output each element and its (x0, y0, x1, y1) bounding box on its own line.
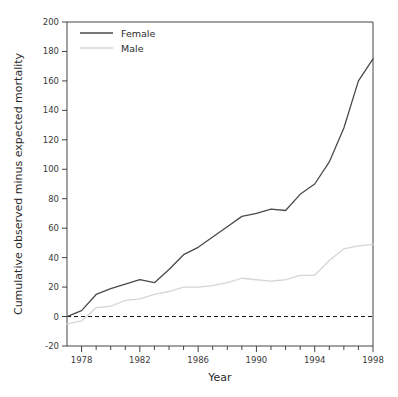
chart-figure: -20020406080100120140160180200 197819821… (0, 0, 398, 397)
y-tick-label-200: 200 (43, 17, 59, 27)
legend-label-male: Male (121, 43, 144, 54)
chart-background (0, 0, 398, 397)
y-axis-title: Cumulative observed minus expected morta… (12, 52, 25, 315)
x-tick-label-1998: 1998 (362, 355, 384, 365)
y-tick-label-160: 160 (43, 76, 59, 86)
x-tick-label-1986: 1986 (187, 355, 209, 365)
x-tick-label-1978: 1978 (71, 355, 93, 365)
y-tick-label-40: 40 (48, 253, 59, 263)
y-tick-label-80: 80 (48, 194, 59, 204)
x-axis-title: Year (207, 371, 232, 384)
y-tick-label-0: 0 (54, 312, 59, 322)
legend-label-female: Female (121, 28, 156, 39)
y-tick-label-180: 180 (43, 46, 59, 56)
y-tick-label-60: 60 (48, 223, 59, 233)
x-tick-label-1982: 1982 (129, 355, 151, 365)
y-tick-label-120: 120 (43, 135, 59, 145)
y-tick-label--20: -20 (45, 341, 59, 351)
y-tick-label-100: 100 (43, 164, 59, 174)
y-tick-label-140: 140 (43, 105, 59, 115)
line-chart: -20020406080100120140160180200 197819821… (0, 0, 398, 397)
x-tick-label-1994: 1994 (304, 355, 326, 365)
y-tick-label-20: 20 (48, 282, 59, 292)
x-tick-label-1990: 1990 (246, 355, 268, 365)
